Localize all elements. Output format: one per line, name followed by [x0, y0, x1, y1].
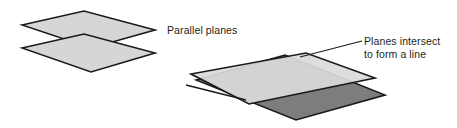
figure-canvas [0, 0, 457, 128]
parallel-planes-group [22, 11, 155, 72]
figure-root: Parallel planes Planes intersect to form… [0, 0, 457, 128]
label-parallel-planes: Parallel planes [167, 24, 237, 37]
intersect-leader-line [300, 41, 362, 57]
label-planes-intersect-line2: to form a line [364, 48, 426, 61]
lower-parallel-plane [22, 34, 155, 72]
label-planes-intersect-line1: Planes intersect [364, 35, 440, 48]
intersecting-planes-group [186, 53, 385, 120]
